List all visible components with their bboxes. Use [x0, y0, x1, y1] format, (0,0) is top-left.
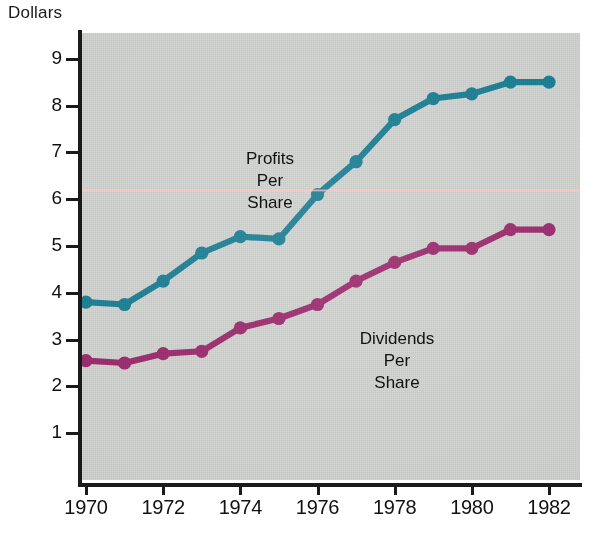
y-axis-line	[78, 30, 82, 487]
data-point-dividends-1982	[542, 223, 555, 236]
data-point-profits-1977	[349, 155, 362, 168]
series-line-dividends	[86, 230, 549, 363]
series-label-profits: Profits Per Share	[218, 148, 322, 213]
y-tick-label-text: 2	[20, 375, 62, 394]
data-point-dividends-1977	[349, 274, 362, 287]
data-point-profits-1974	[234, 230, 247, 243]
y-tick-label-5: 5	[0, 235, 62, 255]
data-point-dividends-1975	[272, 312, 285, 325]
y-tick-1	[66, 432, 79, 435]
y-tick-9	[66, 58, 79, 61]
series-label-profits-line3: Share	[218, 192, 322, 214]
data-point-profits-1978	[388, 113, 401, 126]
y-tick-label-text: 3	[20, 329, 62, 348]
y-tick-8	[66, 105, 79, 108]
chart-container: Dollars 123456789 1970197219741976197819…	[0, 0, 597, 550]
x-tick-1970	[85, 483, 88, 495]
series-label-profits-line2: Per	[218, 170, 322, 192]
y-tick-label-1: 1	[0, 422, 62, 442]
y-tick-label-3: 3	[0, 329, 62, 349]
data-point-dividends-1981	[504, 223, 517, 236]
data-point-profits-1980	[465, 87, 478, 100]
series-label-dividends-line1: Dividends	[339, 328, 455, 350]
y-tick-label-text: 7	[20, 141, 62, 160]
y-tick-5	[66, 245, 79, 248]
y-tick-label-8: 8	[0, 95, 62, 115]
data-point-dividends-1979	[427, 242, 440, 255]
data-point-dividends-1970	[82, 354, 93, 367]
series-label-dividends-line2: Per	[339, 350, 455, 372]
plot-area	[82, 33, 580, 480]
x-tick-1980	[471, 483, 474, 495]
data-point-profits-1975	[272, 232, 285, 245]
data-point-dividends-1974	[234, 321, 247, 334]
data-point-dividends-1978	[388, 256, 401, 269]
y-tick-label-7: 7	[0, 141, 62, 161]
series-label-dividends: Dividends Per Share	[339, 328, 455, 393]
y-tick-label-text: 1	[20, 422, 62, 441]
data-point-dividends-1980	[465, 242, 478, 255]
y-tick-2	[66, 385, 79, 388]
x-tick-1978	[394, 483, 397, 495]
y-tick-6	[66, 198, 79, 201]
data-point-dividends-1972	[157, 347, 170, 360]
data-point-profits-1973	[195, 246, 208, 259]
data-point-profits-1970	[82, 296, 93, 309]
series-label-dividends-line3: Share	[339, 372, 455, 394]
data-point-dividends-1976	[311, 298, 324, 311]
x-axis-line	[78, 483, 582, 487]
y-tick-4	[66, 292, 79, 295]
y-tick-label-2: 2	[0, 375, 62, 395]
data-point-profits-1972	[157, 274, 170, 287]
x-tick-1974	[239, 483, 242, 495]
x-tick-1976	[317, 483, 320, 495]
y-tick-label-text: 6	[20, 188, 62, 207]
y-tick-label-6: 6	[0, 188, 62, 208]
y-tick-label-4: 4	[0, 282, 62, 302]
x-tick-label-1982: 1982	[504, 497, 594, 517]
series-dividends	[82, 223, 556, 370]
series-layer	[82, 33, 580, 480]
data-point-dividends-1971	[118, 356, 131, 369]
data-point-profits-1971	[118, 298, 131, 311]
series-label-profits-line1: Profits	[218, 148, 322, 170]
x-tick-1972	[162, 483, 165, 495]
y-tick-label-text: 5	[20, 235, 62, 254]
data-point-profits-1979	[427, 92, 440, 105]
y-tick-7	[66, 151, 79, 154]
y-tick-label-text: 8	[20, 95, 62, 114]
y-tick-label-text: 4	[20, 282, 62, 301]
y-tick-3	[66, 339, 79, 342]
data-point-dividends-1973	[195, 345, 208, 358]
y-tick-label-text: 9	[20, 48, 62, 67]
x-tick-1982	[548, 483, 551, 495]
y-axis-title: Dollars	[8, 3, 62, 23]
y-tick-label-9: 9	[0, 48, 62, 68]
data-point-profits-1982	[542, 76, 555, 89]
data-point-profits-1981	[504, 76, 517, 89]
